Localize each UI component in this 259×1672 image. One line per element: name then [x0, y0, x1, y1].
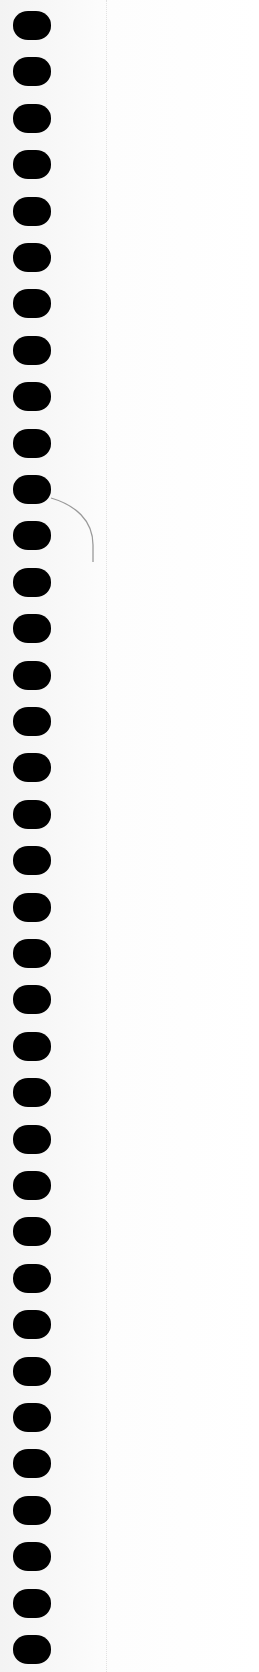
curved-line-mark: [0, 0, 259, 1672]
notebook-page: [0, 0, 259, 1672]
